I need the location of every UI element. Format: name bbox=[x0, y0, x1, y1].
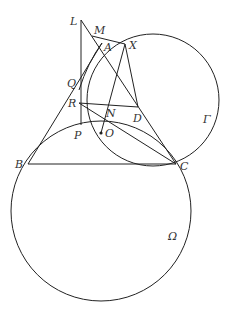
geometry-diagram: L M A X Q R N D P O B C Γ Ω bbox=[0, 0, 231, 321]
label-X: X bbox=[128, 39, 138, 52]
segment-RC bbox=[79, 103, 176, 164]
label-P: P bbox=[73, 129, 82, 142]
label-C: C bbox=[180, 160, 189, 173]
label-A: A bbox=[103, 41, 112, 54]
arc-QA bbox=[79, 43, 102, 90]
label-R: R bbox=[67, 97, 76, 110]
label-gamma: Γ bbox=[202, 113, 211, 126]
label-Q: Q bbox=[67, 77, 76, 90]
label-B: B bbox=[14, 158, 23, 171]
point-O bbox=[99, 131, 102, 134]
label-O: O bbox=[105, 127, 114, 140]
label-D: D bbox=[132, 112, 142, 125]
label-M: M bbox=[93, 24, 106, 37]
label-N: N bbox=[105, 107, 116, 120]
label-L: L bbox=[69, 15, 77, 28]
label-omega: Ω bbox=[167, 230, 177, 243]
segment-XD bbox=[125, 44, 138, 107]
